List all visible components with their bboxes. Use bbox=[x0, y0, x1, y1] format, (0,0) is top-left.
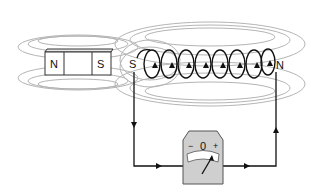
magnet-north-label: N bbox=[50, 58, 58, 70]
induction-diagram: N S S N bbox=[0, 0, 311, 194]
bar-magnet: N S bbox=[45, 49, 113, 75]
magnet-south-label: S bbox=[97, 58, 104, 70]
galvanometer-plus-label: + bbox=[213, 141, 218, 151]
galvanometer: − 0 + bbox=[183, 131, 223, 184]
coil-north-label: N bbox=[276, 59, 284, 71]
galvanometer-zero-label: 0 bbox=[200, 140, 206, 152]
coil-south-label: S bbox=[129, 58, 136, 70]
galvanometer-minus-label: − bbox=[188, 141, 193, 151]
